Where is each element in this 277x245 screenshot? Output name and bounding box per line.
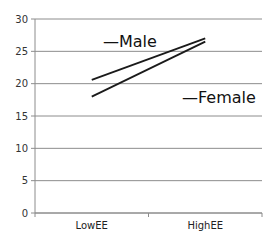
y-tick-label: 20: [15, 78, 28, 89]
y-tick-label: 0: [22, 208, 28, 219]
y-axis-ticks: 051015202530: [15, 14, 35, 219]
legend-female: —Female: [182, 88, 256, 107]
x-category-label: LowEE: [76, 220, 108, 231]
x-axis-categories: LowEEHighEE: [35, 213, 262, 231]
y-tick-label: 15: [15, 111, 28, 122]
y-tick-label: 30: [15, 14, 28, 25]
x-category-label: HighEE: [187, 220, 223, 231]
y-tick-label: 25: [15, 46, 28, 57]
line-chart: 051015202530 LowEEHighEE —Male —Female: [0, 0, 277, 245]
legend-male: —Male: [103, 32, 157, 51]
y-tick-label: 10: [15, 143, 28, 154]
y-tick-label: 5: [22, 175, 28, 186]
